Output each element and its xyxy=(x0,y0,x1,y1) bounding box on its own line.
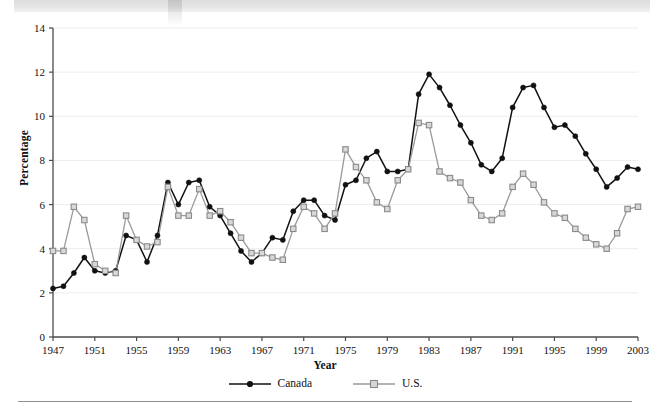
legend-label-canada: Canada xyxy=(278,378,312,391)
y-tick-labels-group: 02468101214 xyxy=(34,22,53,343)
data-point-us xyxy=(238,235,243,240)
y-tick-label: 10 xyxy=(34,110,46,122)
data-point-canada xyxy=(437,85,442,90)
x-tick-label: 1947 xyxy=(42,344,65,356)
data-point-us xyxy=(71,204,76,209)
data-point-canada xyxy=(416,92,421,97)
data-point-us xyxy=(510,184,515,189)
y-tick-label: 0 xyxy=(40,331,46,343)
series-markers-group xyxy=(50,72,640,291)
x-tick-label: 1991 xyxy=(502,344,524,356)
y-tick-label: 4 xyxy=(40,243,46,255)
series-lines-group xyxy=(53,74,638,288)
x-tick-label: 1983 xyxy=(418,344,441,356)
data-point-canada xyxy=(447,103,452,108)
x-tick-label: 1979 xyxy=(376,344,399,356)
data-point-us xyxy=(207,213,212,218)
chart-legend: Canada U.S. xyxy=(0,378,650,391)
data-point-canada xyxy=(541,105,546,110)
data-point-us xyxy=(61,248,66,253)
data-point-canada xyxy=(573,134,578,139)
data-point-us xyxy=(343,147,348,152)
data-point-us xyxy=(50,248,55,253)
data-point-canada xyxy=(562,123,567,128)
data-point-us xyxy=(249,250,254,255)
data-point-canada xyxy=(186,180,191,185)
data-point-us xyxy=(332,211,337,216)
data-point-us xyxy=(447,175,452,180)
line-chart-plot: 02468101214 1947195119551959196319671971… xyxy=(0,0,650,409)
data-point-canada xyxy=(353,178,358,183)
data-point-us xyxy=(573,226,578,231)
x-tick-label: 1987 xyxy=(460,344,483,356)
data-point-us xyxy=(186,213,191,218)
x-tick-label: 1963 xyxy=(209,344,232,356)
data-point-canada xyxy=(71,270,76,275)
legend-item-us[interactable]: U.S. xyxy=(352,378,422,391)
data-point-canada xyxy=(604,184,609,189)
x-tick-label: 1951 xyxy=(84,344,106,356)
data-point-us xyxy=(270,255,275,260)
data-point-canada xyxy=(374,149,379,154)
data-point-canada xyxy=(552,125,557,130)
data-point-us xyxy=(134,237,139,242)
legend-item-canada[interactable]: Canada xyxy=(228,378,312,391)
legend-label-us: U.S. xyxy=(402,378,422,391)
x-axis-title: Year xyxy=(0,359,650,371)
x-tick-label: 1971 xyxy=(293,344,315,356)
x-tick-label: 1955 xyxy=(126,344,149,356)
data-point-us xyxy=(197,186,202,191)
data-point-us xyxy=(374,200,379,205)
data-point-canada xyxy=(176,202,181,207)
data-point-us xyxy=(353,164,358,169)
data-point-canada xyxy=(291,209,296,214)
data-point-canada xyxy=(500,156,505,161)
data-point-us xyxy=(594,242,599,247)
data-point-us xyxy=(520,171,525,176)
data-point-us xyxy=(291,226,296,231)
data-point-us xyxy=(103,268,108,273)
chart-figure: 02468101214 1947195119551959196319671971… xyxy=(0,0,650,409)
data-point-us xyxy=(113,270,118,275)
x-tick-label: 1967 xyxy=(251,344,274,356)
y-tick-label: 8 xyxy=(40,154,46,166)
data-point-canada xyxy=(322,213,327,218)
data-point-canada xyxy=(301,198,306,203)
x-tick-label: 1995 xyxy=(543,344,566,356)
data-point-canada xyxy=(207,204,212,209)
data-point-us xyxy=(405,167,410,172)
data-point-us xyxy=(562,215,567,220)
data-point-canada xyxy=(228,231,233,236)
open-square-marker-icon xyxy=(352,378,396,390)
data-point-us xyxy=(364,178,369,183)
data-point-canada xyxy=(479,162,484,167)
data-point-canada xyxy=(364,156,369,161)
data-point-canada xyxy=(489,169,494,174)
data-point-canada xyxy=(615,176,620,181)
data-point-canada xyxy=(92,268,97,273)
data-point-canada xyxy=(510,105,515,110)
data-point-canada xyxy=(145,259,150,264)
data-point-canada xyxy=(333,218,338,223)
data-point-us xyxy=(322,226,327,231)
data-point-canada xyxy=(395,169,400,174)
gridlines-group xyxy=(53,28,638,293)
data-point-canada xyxy=(51,286,56,291)
data-point-canada xyxy=(270,235,275,240)
data-point-us xyxy=(217,208,222,213)
data-point-us xyxy=(123,213,128,218)
data-point-us xyxy=(385,206,390,211)
bottom-divider xyxy=(18,401,632,402)
data-point-canada xyxy=(312,198,317,203)
y-axis-title: Percentage xyxy=(18,103,30,213)
data-point-canada xyxy=(583,151,588,156)
data-point-canada xyxy=(594,167,599,172)
data-point-us xyxy=(301,204,306,209)
data-point-us xyxy=(426,122,431,127)
data-point-us xyxy=(541,200,546,205)
filled-circle-marker-icon xyxy=(228,378,272,390)
data-point-us xyxy=(614,231,619,236)
data-point-us xyxy=(155,239,160,244)
data-point-canada xyxy=(625,165,630,170)
data-point-canada xyxy=(385,169,390,174)
